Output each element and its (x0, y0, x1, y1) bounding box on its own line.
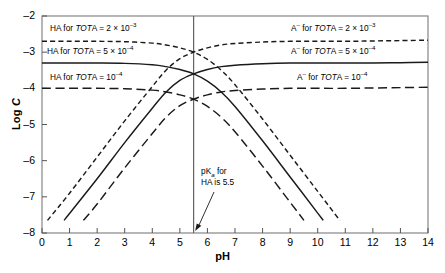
x-tick-label: 9 (280, 236, 300, 248)
chart-curve (42, 63, 323, 220)
x-tick-label: 13 (390, 236, 410, 248)
y-tick-label: –2 (11, 9, 35, 21)
curve-label-a-1e-4: A– for TOTA = 10–4 (297, 71, 367, 81)
chart-curve (42, 88, 304, 220)
y-tick-label: –6 (11, 154, 35, 166)
curve-label-a-2e-3: A– for TOTA = 2 × 10–3 (291, 22, 375, 32)
x-tick-label: 8 (253, 236, 273, 248)
x-axis-label: pH (0, 250, 445, 262)
x-tick-label: 7 (225, 236, 245, 248)
y-tick-label: –4 (11, 81, 35, 93)
y-tick-label: –3 (11, 45, 35, 57)
x-tick-label: 12 (363, 236, 383, 248)
x-tick-label: 3 (115, 236, 135, 248)
pka-arrow-shaft (198, 192, 214, 227)
x-tick-label: 6 (197, 236, 217, 248)
pka-annotation: pKa forHA is 5.5 (201, 167, 234, 188)
curve-label-ha-2e-3: HA for TOTA = 2 × 10–3 (50, 22, 137, 32)
curve-label-ha-1e-4: HA for TOTA = 10–4 (50, 71, 122, 81)
x-tick-label: 1 (60, 236, 80, 248)
chart-canvas (0, 0, 445, 273)
x-tick-label: 5 (170, 236, 190, 248)
x-tick-label: 14 (418, 236, 438, 248)
y-tick-label: –5 (11, 118, 35, 130)
chart-curve (64, 62, 428, 220)
y-axis-label-italic: C (10, 98, 22, 106)
x-tick-label: 2 (87, 236, 107, 248)
chart-curve (42, 41, 340, 220)
log-c-vs-ph-chart: Log C pH –2–3–4–5–6–7–8 0123456789101112… (0, 0, 445, 273)
curve-label-ha-5e-4: HA for TOTA = 5 × 10–4 (47, 45, 134, 55)
x-tick-label: 11 (335, 236, 355, 248)
x-tick-label: 0 (32, 236, 52, 248)
pka-arrow-head (195, 224, 201, 231)
x-tick-label: 10 (308, 236, 328, 248)
curve-label-a-5e-4: A– for TOTA = 5 × 10–4 (291, 45, 375, 55)
x-tick-label: 4 (142, 236, 162, 248)
y-tick-label: –7 (11, 190, 35, 202)
